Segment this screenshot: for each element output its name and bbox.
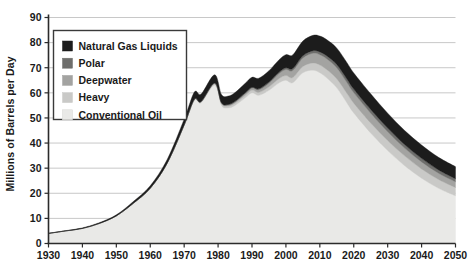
x-tick-label-2000: 2000 [274,249,298,261]
legend-swatch-conventional-oil [63,110,73,120]
y-tick-label-20: 20 [30,187,42,199]
chart-legend: Natural Gas LiquidsPolarDeepwaterHeavyCo… [54,31,187,121]
y-tick-label-10: 10 [30,212,42,224]
legend-label-heavy: Heavy [79,91,110,103]
x-tick-label-2020: 2020 [342,249,366,261]
x-tick-label-2040: 2040 [410,249,434,261]
y-tick-label-80: 80 [30,36,42,48]
y-tick-label-40: 40 [30,137,42,149]
x-tick-label-1970: 1970 [172,249,196,261]
x-tick-label-2010: 2010 [308,249,332,261]
y-tick-label-0: 0 [36,237,42,249]
legend-swatch-polar [63,58,73,68]
y-tick-label-60: 60 [30,87,42,99]
legend-label-polar: Polar [79,57,105,69]
x-tick-label-1990: 1990 [240,249,264,261]
oil-production-chart: Millions of Barrels per Day 010203040506… [0,0,470,268]
x-tick-label-1960: 1960 [139,249,163,261]
x-tick-labels-group: 1930194019501960197019801990200020102020… [37,244,468,262]
x-tick-label-1980: 1980 [206,249,230,261]
legend-label-conventional-oil: Conventional Oil [79,109,163,121]
plot-area: 0102030405060708090 19301940195019601970… [0,0,470,268]
y-tick-label-50: 50 [30,112,42,124]
x-tick-label-1950: 1950 [105,249,129,261]
y-tick-label-90: 90 [30,11,42,23]
x-tick-label-1930: 1930 [37,249,61,261]
legend-label-deepwater: Deepwater [79,74,132,86]
legend-swatch-natural-gas-liquids [63,41,73,51]
legend-swatch-heavy [63,93,73,103]
y-tick-label-70: 70 [30,62,42,74]
legend-label-natural-gas-liquids: Natural Gas Liquids [79,40,178,52]
legend-swatch-deepwater [63,75,73,85]
x-tick-label-2050: 2050 [444,249,468,261]
y-tick-labels-group: 0102030405060708090 [30,11,49,249]
y-tick-label-30: 30 [30,162,42,174]
x-tick-label-1940: 1940 [71,249,95,261]
x-tick-label-2030: 2030 [376,249,400,261]
